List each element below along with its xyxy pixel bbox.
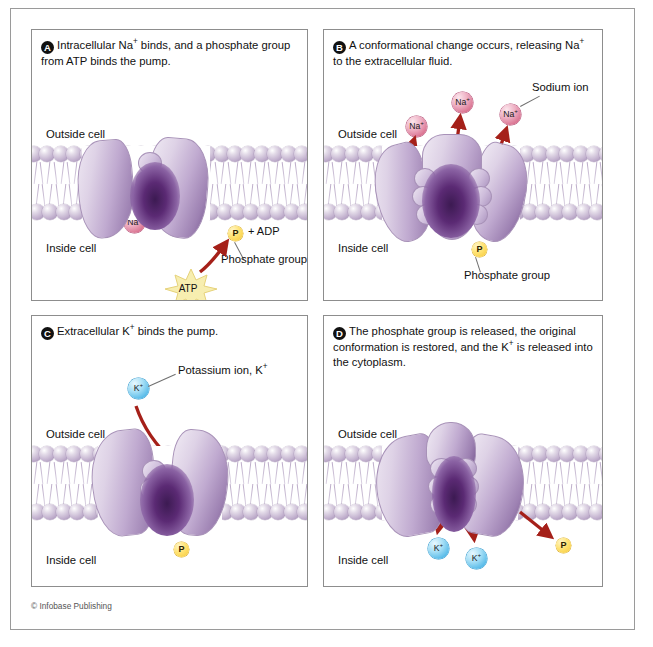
panel-d: DThe phosphate group is released, the or…	[323, 315, 603, 587]
panel-a-pump-protein	[76, 138, 216, 238]
pump-channel	[422, 164, 480, 238]
panel-d-pump-protein	[376, 422, 524, 534]
atp-burst: ATP	[162, 268, 214, 301]
pump-channel	[432, 456, 476, 532]
panel-a: AIntracellular Na+ binds, and a phosphat…	[31, 29, 308, 301]
panel-c-pump-protein	[92, 424, 228, 534]
panel-b: BA conformational change occurs, releasi…	[323, 29, 603, 301]
phosphate-group-icon: P	[472, 242, 487, 257]
panel-b-inside-label: Inside cell	[338, 242, 388, 254]
phospholipid-head	[307, 446, 308, 462]
panel-c-inside-label: Inside cell	[46, 554, 96, 566]
phosphate-group-icon: P	[556, 538, 571, 553]
phospholipid-head	[307, 146, 308, 162]
phospholipid-head	[602, 204, 603, 220]
copyright-credit: © Infobase Publishing	[31, 601, 112, 611]
phosphate-annotation: Phosphate group	[464, 268, 550, 282]
pump-channel	[140, 464, 194, 536]
potassium-ion-2: K+	[466, 548, 487, 569]
potassium-ion-1: K+	[428, 538, 449, 559]
pump-channel	[130, 162, 180, 230]
panel-d-inside-label: Inside cell	[338, 554, 388, 566]
phospholipid-head	[602, 504, 603, 520]
phosphate-group-icon: P	[174, 542, 189, 557]
pump-lobe-left	[74, 138, 138, 241]
panel-b-pump-protein	[376, 134, 526, 242]
atp-label: ATP	[179, 283, 198, 294]
panel-a-inside-label: Inside cell	[46, 242, 96, 254]
figure-frame: AIntracellular Na+ binds, and a phosphat…	[10, 8, 635, 630]
panel-c: CExtracellular K+ binds the pump. K+ K+ …	[31, 315, 308, 587]
